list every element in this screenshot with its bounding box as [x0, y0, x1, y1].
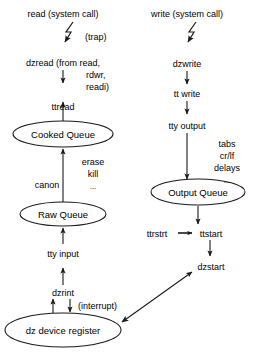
label-read-system-call: read (system call) [27, 9, 98, 20]
label-dzstart: dzstart [197, 262, 224, 273]
label-dzrint: dzrint [52, 288, 74, 299]
label-output-note-ellipsis: ... [224, 175, 231, 186]
label-tty-output: tty output [168, 121, 205, 132]
label-write-system-call: write (system call) [151, 9, 223, 20]
label-canon: canon [35, 180, 60, 191]
tty-dataflow-diagram: read (system call) (trap) dzread (from r… [0, 0, 264, 353]
label-tt-write: tt write [174, 89, 201, 100]
label-canon-note-erase: erase [82, 157, 105, 168]
label-dzread-line1: dzread (from read, [26, 58, 100, 69]
trap-lightning-arrow [65, 22, 73, 42]
label-ttread: ttread [51, 102, 74, 113]
node-dz-device-register: dz device register [26, 325, 100, 336]
label-canon-note-ellipsis: ... [90, 181, 97, 192]
label-output-note-crlf: cr/lf [220, 151, 235, 162]
node-raw-queue: Raw Queue [38, 209, 88, 220]
label-trap: (trap) [85, 32, 107, 43]
label-dzread-line2: rdwr, [86, 70, 106, 81]
node-output-queue: Output Queue [168, 187, 228, 198]
label-dzwrite: dzwrite [173, 59, 202, 70]
arrow-dzstart-deviceregister-bidirectional [122, 272, 192, 322]
label-ttrstrt: ttrstrt [147, 229, 168, 240]
label-dzread-line3: readi) [86, 82, 109, 93]
label-interrupt: (interrupt) [78, 301, 117, 312]
node-cooked-queue: Cooked Queue [31, 129, 95, 140]
label-canon-note-kill: kill [88, 169, 99, 180]
label-output-note-delays: delays [214, 163, 240, 174]
label-ttstart: ttstart [200, 229, 223, 240]
write-lightning-arrow [188, 22, 196, 42]
label-tty-input: tty input [47, 249, 79, 260]
label-output-note-tabs: tabs [218, 139, 235, 150]
